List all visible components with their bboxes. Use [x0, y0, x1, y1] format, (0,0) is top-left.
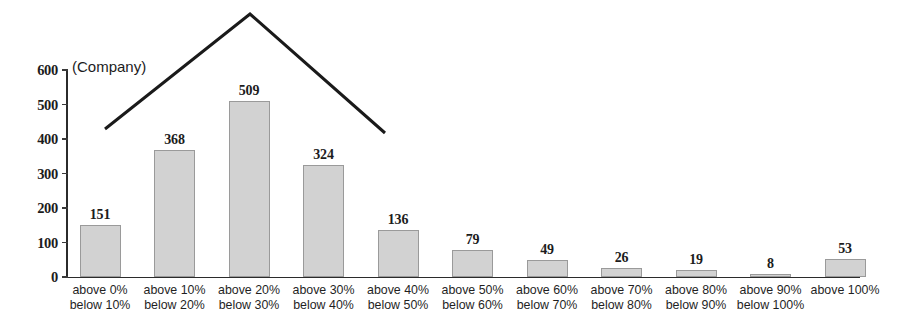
category-label-line: below 40%: [282, 298, 366, 313]
bar-value-label: 19: [666, 253, 726, 267]
bar: [601, 268, 642, 277]
bar: [229, 101, 270, 277]
bar: [452, 250, 493, 277]
bar-value-label: 8: [741, 257, 801, 271]
bar-value-label: 509: [219, 84, 279, 98]
category-label: above 60%below 70%: [505, 283, 589, 313]
bar: [825, 259, 866, 277]
category-label: above 100%: [803, 283, 887, 298]
category-label-line: below 10%: [58, 298, 142, 313]
y-tick-mark: [62, 207, 68, 208]
category-label: above 90%below 100%: [729, 283, 813, 313]
bar: [154, 150, 195, 277]
category-label-line: below 70%: [505, 298, 589, 313]
bar-chart: (Company) 6005004003002001000 1513685093…: [0, 0, 905, 333]
category-label: above 40%below 50%: [356, 283, 440, 313]
bar-value-label: 151: [70, 208, 130, 222]
unit-label: (Company): [72, 59, 146, 74]
bar-value-label: 49: [517, 243, 577, 257]
y-tick-label: 300: [18, 167, 58, 182]
category-label-line: below 30%: [207, 298, 291, 313]
bar: [750, 274, 791, 277]
category-label-line: below 20%: [133, 298, 217, 313]
bar: [676, 270, 717, 277]
category-label-line: below 50%: [356, 298, 440, 313]
category-label-line: above 100%: [803, 283, 887, 298]
y-tick-label: 200: [18, 201, 58, 216]
bar: [527, 260, 568, 277]
y-tick-mark: [62, 138, 68, 139]
y-tick-mark: [62, 276, 68, 277]
y-tick-mark: [62, 173, 68, 174]
category-label-line: above 60%: [505, 283, 589, 298]
category-label: above 80%below 90%: [654, 283, 738, 313]
bar-value-label: 26: [592, 251, 652, 265]
category-label: above 30%below 40%: [282, 283, 366, 313]
y-tick-label: 500: [18, 98, 58, 113]
bar-value-label: 79: [443, 233, 503, 247]
category-label-line: below 90%: [654, 298, 738, 313]
category-label-line: below 100%: [729, 298, 813, 313]
category-label: above 0%below 10%: [58, 283, 142, 313]
category-label-line: above 0%: [58, 283, 142, 298]
bar-value-label: 136: [368, 213, 428, 227]
category-label-line: above 40%: [356, 283, 440, 298]
category-label-line: above 30%: [282, 283, 366, 298]
bar: [303, 165, 344, 277]
category-label-line: below 60%: [431, 298, 515, 313]
bar: [80, 225, 121, 277]
category-label: above 10%below 20%: [133, 283, 217, 313]
y-tick-mark: [62, 69, 68, 70]
y-tick-mark: [62, 242, 68, 243]
bar: [378, 230, 419, 277]
category-label: above 70%below 80%: [580, 283, 664, 313]
bar-value-label: 53: [815, 242, 875, 256]
y-tick-label: 600: [18, 63, 58, 78]
category-label-line: above 90%: [729, 283, 813, 298]
category-label-line: above 20%: [207, 283, 291, 298]
y-tick-label: 100: [18, 236, 58, 251]
category-label-line: below 80%: [580, 298, 664, 313]
category-label-line: above 80%: [654, 283, 738, 298]
bar-value-label: 368: [145, 133, 205, 147]
y-tick-label: 0: [18, 270, 58, 285]
category-label-line: above 10%: [133, 283, 217, 298]
category-label: above 20%below 30%: [207, 283, 291, 313]
category-label: above 50%below 60%: [431, 283, 515, 313]
category-label-line: above 70%: [580, 283, 664, 298]
category-label-line: above 50%: [431, 283, 515, 298]
y-tick-mark: [62, 104, 68, 105]
bar-value-label: 324: [294, 148, 354, 162]
y-tick-label: 400: [18, 132, 58, 147]
